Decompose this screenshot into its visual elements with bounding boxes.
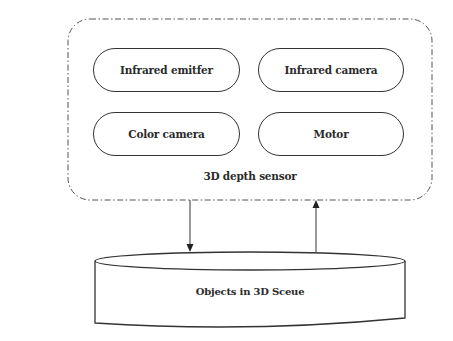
component-motor: Motor — [258, 112, 404, 156]
scene-label: Objects in 3D Sceue — [95, 286, 405, 297]
component-label: Color camera — [128, 128, 204, 140]
component-label: Motor — [313, 128, 348, 140]
component-label: Infrared emitfer — [120, 64, 213, 76]
component-color-camera: Color camera — [93, 112, 240, 156]
arrowhead-up-icon — [313, 200, 320, 208]
sensor-container-label: 3D depth sensor — [150, 170, 350, 182]
arrowhead-down-icon — [187, 244, 194, 252]
component-infrared-emitter: Infrared emitfer — [93, 48, 240, 92]
component-infrared-camera: Infrared camera — [258, 48, 404, 92]
component-label: Infrared camera — [285, 64, 378, 76]
